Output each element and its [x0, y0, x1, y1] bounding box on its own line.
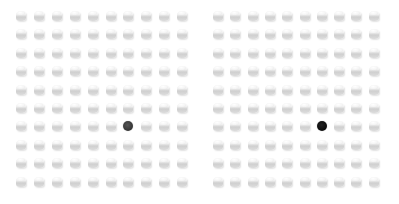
white-cylinder [34, 48, 44, 58]
white-cylinder [159, 177, 169, 187]
white-cylinder [300, 11, 310, 21]
odd-dark-cylinder [123, 121, 133, 131]
white-cylinder [52, 11, 62, 21]
white-cylinder [177, 66, 187, 76]
white-cylinder [317, 140, 327, 150]
white-cylinder [282, 140, 292, 150]
white-cylinder [52, 29, 62, 39]
white-cylinder [123, 85, 133, 95]
white-cylinder [213, 48, 223, 58]
white-cylinder [213, 66, 223, 76]
white-cylinder [248, 177, 258, 187]
white-cylinder [369, 158, 379, 168]
white-cylinder [334, 85, 344, 95]
white-cylinder [265, 29, 275, 39]
white-cylinder [177, 48, 187, 58]
white-cylinder [317, 11, 327, 21]
white-cylinder [265, 140, 275, 150]
white-cylinder [300, 85, 310, 95]
white-cylinder [16, 140, 26, 150]
white-cylinder [34, 177, 44, 187]
white-cylinder [106, 66, 116, 76]
white-cylinder [52, 121, 62, 131]
white-cylinder [282, 158, 292, 168]
white-cylinder [159, 121, 169, 131]
white-cylinder [282, 103, 292, 113]
white-cylinder [177, 85, 187, 95]
white-cylinder [230, 121, 240, 131]
white-cylinder [16, 85, 26, 95]
white-cylinder [230, 11, 240, 21]
white-cylinder [369, 85, 379, 95]
white-cylinder [123, 66, 133, 76]
white-cylinder [106, 11, 116, 21]
white-cylinder [88, 140, 98, 150]
white-cylinder [159, 29, 169, 39]
white-cylinder [351, 11, 361, 21]
white-cylinder [16, 48, 26, 58]
white-cylinder [34, 140, 44, 150]
white-cylinder [141, 140, 151, 150]
white-cylinder [70, 121, 80, 131]
white-cylinder [159, 85, 169, 95]
white-cylinder [265, 48, 275, 58]
white-cylinder [34, 11, 44, 21]
white-cylinder [300, 29, 310, 39]
white-cylinder [16, 177, 26, 187]
white-cylinder [177, 177, 187, 187]
white-cylinder [248, 11, 258, 21]
white-cylinder [369, 103, 379, 113]
white-cylinder [265, 177, 275, 187]
white-cylinder [70, 140, 80, 150]
white-cylinder [34, 121, 44, 131]
white-cylinder [248, 140, 258, 150]
white-cylinder [159, 66, 169, 76]
white-cylinder [123, 11, 133, 21]
white-cylinder [300, 66, 310, 76]
white-cylinder [334, 121, 344, 131]
white-cylinder [70, 85, 80, 95]
white-cylinder [351, 48, 361, 58]
white-cylinder [34, 85, 44, 95]
white-cylinder [52, 140, 62, 150]
white-cylinder [351, 177, 361, 187]
white-cylinder [300, 103, 310, 113]
white-cylinder [213, 29, 223, 39]
white-cylinder [123, 29, 133, 39]
white-cylinder [317, 158, 327, 168]
white-cylinder [34, 29, 44, 39]
white-cylinder [213, 177, 223, 187]
white-cylinder [334, 158, 344, 168]
white-cylinder [230, 66, 240, 76]
white-cylinder [248, 121, 258, 131]
white-cylinder [213, 121, 223, 131]
white-cylinder [52, 48, 62, 58]
white-cylinder [213, 85, 223, 95]
white-cylinder [248, 103, 258, 113]
white-cylinder [70, 66, 80, 76]
white-cylinder [230, 29, 240, 39]
white-cylinder [282, 29, 292, 39]
white-cylinder [265, 103, 275, 113]
white-cylinder [70, 158, 80, 168]
white-cylinder [351, 158, 361, 168]
white-cylinder [317, 66, 327, 76]
white-cylinder [16, 29, 26, 39]
white-cylinder [230, 85, 240, 95]
white-cylinder [52, 85, 62, 95]
white-cylinder [334, 48, 344, 58]
white-cylinder [300, 140, 310, 150]
white-cylinder [177, 121, 187, 131]
white-cylinder [123, 48, 133, 58]
white-cylinder [230, 177, 240, 187]
white-cylinder [141, 29, 151, 39]
white-cylinder [106, 158, 116, 168]
white-cylinder [300, 177, 310, 187]
odd-dark-cylinder [317, 121, 327, 131]
white-cylinder [351, 29, 361, 39]
white-cylinder [159, 48, 169, 58]
white-cylinder [177, 140, 187, 150]
white-cylinder [282, 85, 292, 95]
white-cylinder [369, 11, 379, 21]
white-cylinder [369, 121, 379, 131]
